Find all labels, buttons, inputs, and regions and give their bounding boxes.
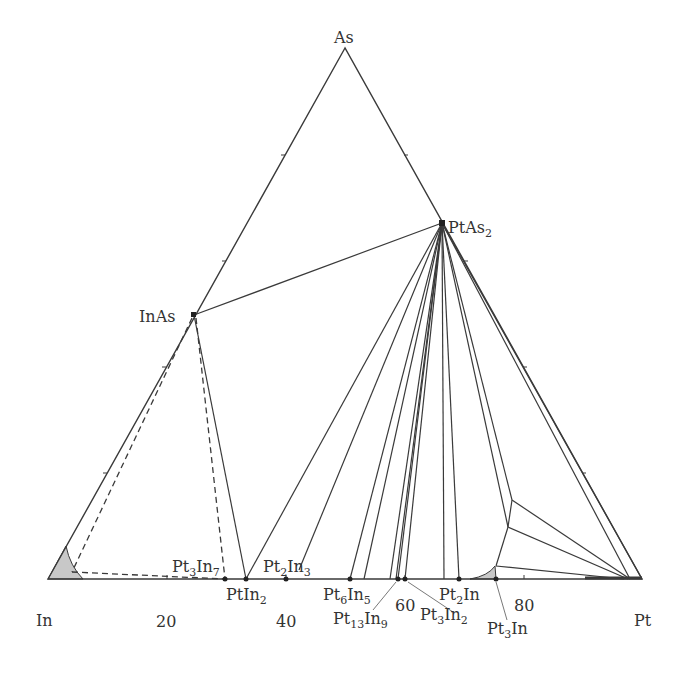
label-inas: InAs (139, 307, 175, 326)
label-ptin2: PtIn2 (226, 585, 267, 607)
label-ptas2: PtAs2 (448, 218, 492, 240)
inas-point (191, 312, 196, 317)
label-pt2in: Pt2In (439, 585, 480, 607)
solid-tie-lines (194, 223, 642, 579)
ternary-phase-diagram: As In Pt InAs PtAs2 Pt3In7 PtIn2 Pt2In3 … (0, 0, 690, 674)
liquid-region-in-corner (48, 546, 83, 579)
pt2in-point (457, 577, 462, 582)
vertex-label-pt: Pt (634, 611, 652, 630)
tick-label-60: 60 (395, 596, 415, 615)
pt3in7-point (223, 577, 228, 582)
label-pt3in2: Pt3In2 (420, 605, 468, 627)
ptas2-point (439, 220, 445, 226)
pt3in-homogeneity-region (470, 566, 496, 579)
tick-label-80: 80 (514, 596, 534, 615)
vertex-label-in: In (36, 611, 53, 630)
triangle-outline (48, 48, 642, 579)
vertex-label-as: As (333, 28, 354, 47)
label-pt6in5: Pt6In5 (323, 585, 371, 607)
ptin2-point (244, 577, 249, 582)
label-pt13in9: Pt13In9 (333, 609, 388, 631)
pt3in-point (494, 577, 499, 582)
tick-label-20: 20 (156, 612, 176, 631)
tick-label-40: 40 (276, 612, 296, 631)
label-pt3in7: Pt3In7 (172, 557, 220, 579)
label-pt3in: Pt3In (487, 619, 528, 641)
pt13in9-point (396, 577, 401, 582)
pt3in2-point (403, 577, 408, 582)
label-pt2in3: Pt2In3 (263, 557, 311, 579)
pt6in5-point (348, 577, 353, 582)
